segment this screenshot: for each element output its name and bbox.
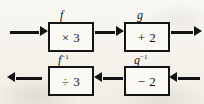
arrow-shaft	[95, 31, 115, 34]
function-machine-diagram: f × 3 g + 2 f−1	[0, 0, 204, 104]
machine-box-f-inverse: ÷ 3	[48, 66, 94, 96]
arrow-shaft	[171, 31, 193, 34]
arrow-shaft	[103, 77, 123, 80]
arrow-head-left	[169, 72, 177, 82]
label-g-inverse: g−1	[134, 54, 147, 66]
label-g-text: g	[137, 8, 143, 22]
machine-g-inverse-operation: − 2	[138, 75, 157, 88]
label-g: g	[137, 9, 143, 21]
arrow-head-left	[7, 72, 15, 82]
arrow-head-right	[116, 26, 124, 36]
arrow-shaft	[10, 31, 39, 34]
label-f-inverse-exponent: −1	[61, 53, 68, 61]
arrow-shaft	[178, 77, 200, 80]
machine-f-operation: × 3	[62, 31, 81, 44]
label-g-inverse-exponent: −1	[140, 53, 147, 61]
diagram-canvas: f × 3 g + 2 f−1	[0, 0, 204, 104]
arrow-shaft	[16, 77, 42, 80]
arrow-head-left	[94, 72, 102, 82]
label-f-inverse: f−1	[58, 54, 69, 66]
machine-f-inverse-operation: ÷ 3	[62, 75, 80, 88]
label-f: f	[60, 9, 63, 21]
label-f-text: f	[60, 8, 63, 22]
arrow-head-right	[194, 26, 202, 36]
arrow-head-right	[40, 26, 48, 36]
machine-box-f: × 3	[48, 22, 94, 52]
machine-box-g: + 2	[124, 22, 170, 52]
machine-box-g-inverse: − 2	[124, 66, 170, 96]
machine-g-operation: + 2	[138, 31, 157, 44]
